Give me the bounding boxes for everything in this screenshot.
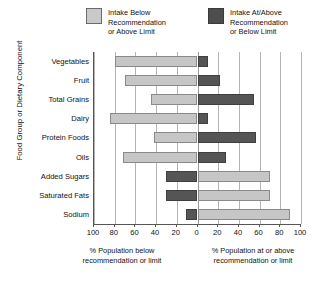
x-axis-tick-label: 40 [234,228,242,237]
x-axis-tick-label: 60 [254,228,262,237]
bar-segment-left [154,132,197,143]
y-axis-category-label: Total Grains [3,90,89,109]
bar-segment-right [198,56,208,67]
chart-container: Intake Below Recommendation or Above Lim… [0,0,320,281]
bar-row [94,205,300,224]
bar-row [94,90,300,109]
gridline [301,52,302,224]
y-axis-category-label: Saturated Fats [3,186,89,205]
chart-legend: Intake Below Recommendation or Above Lim… [86,8,318,48]
bar-segment-right [198,94,255,105]
y-axis-category-label: Fruit [3,71,89,90]
x-axis-tick [300,224,301,227]
x-axis-tick-label: 80 [275,228,283,237]
x-axis-tick-label: 80 [109,228,117,237]
x-axis-tick-label: 20 [172,228,180,237]
bar-row [94,128,300,147]
y-axis-category-label: Oils [3,148,89,167]
x-axis-tick-label: 100 [87,228,100,237]
y-axis-category-labels: VegetablesFruitTotal GrainsDairyProtein … [0,52,89,224]
x-axis-tick [197,224,198,227]
light-swatch-icon [86,8,102,24]
bar-segment-right [198,152,227,163]
bar-segment-right [198,132,257,143]
bar-rows [94,52,300,224]
legend-item-intake-at-above: Intake At/Above Recommendation or Below … [208,8,288,37]
bar-segment-left [115,56,198,67]
bar-segment-right [198,209,290,220]
x-axis-tick [134,224,135,227]
x-axis-tick [155,224,156,227]
bar-segment-left [186,209,197,220]
x-axis-tick [176,224,177,227]
bar-segment-left [166,190,197,201]
x-axis-tick-label: 20 [213,228,221,237]
x-axis-tick-label: 40 [151,228,159,237]
x-axis-tick [93,224,94,227]
bar-segment-left [125,75,197,86]
y-axis-category-label: Protein Foods [3,128,89,147]
y-axis-category-label: Sodium [3,205,89,224]
bar-segment-left [110,113,198,124]
bar-segment-right [198,171,270,182]
y-axis-category-label: Dairy [3,109,89,128]
bar-segment-right [198,75,221,86]
y-axis-category-label: Vegetables [3,52,89,71]
bar-segment-left [151,94,198,105]
bar-row [94,52,300,71]
x-axis-tick [217,224,218,227]
x-axis-tick-label: 60 [130,228,138,237]
x-axis-tick-label: 0 [194,228,198,237]
bar-segment-right [198,113,208,124]
x-axis-tick [238,224,239,227]
bar-segment-left [123,152,198,163]
x-axis-tick [259,224,260,227]
x-axis-caption-left: % Population below recommendation or lim… [62,246,182,265]
bar-row [94,167,300,186]
plot-area [93,52,300,224]
x-axis-caption-right: % Population at or above recommendation … [190,246,316,265]
x-axis-tick [279,224,280,227]
bar-row [94,71,300,90]
bar-segment-left [166,171,197,182]
y-axis-category-label: Added Sugars [3,167,89,186]
x-axis-tick-label: 100 [294,228,307,237]
bar-row [94,109,300,128]
bar-row [94,186,300,205]
legend-item-label: Intake At/Above Recommendation or Below … [230,8,288,37]
dark-swatch-icon [208,8,224,24]
bar-row [94,148,300,167]
legend-item-label: Intake Below Recommendation or Above Lim… [108,8,166,37]
bar-segment-right [198,190,270,201]
x-axis-tick [114,224,115,227]
legend-item-intake-below: Intake Below Recommendation or Above Lim… [86,8,166,37]
